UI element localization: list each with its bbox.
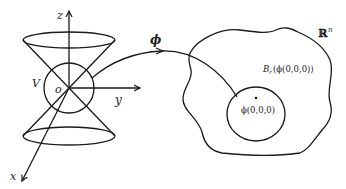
lower-cone-rim: [23, 127, 115, 145]
space-label: ℝ: [318, 27, 328, 40]
origin-label: o: [55, 83, 62, 96]
neighborhood-label: V: [32, 77, 41, 90]
map-label: ϕ: [150, 33, 162, 47]
center-point-label: ϕ(0,0,0): [241, 105, 275, 115]
x-axis: [22, 88, 69, 181]
center-point: [255, 97, 258, 100]
ball-label-subscript: r: [269, 69, 272, 75]
y-axis-label: y: [114, 93, 122, 107]
coordinate-axes: [22, 11, 140, 181]
ball-label-argument: (ϕ(0,0,0)): [273, 64, 314, 74]
mapping-diagram: z y x o V ϕ ℝ n ϕ(0,0,0) B r (ϕ(0,0,0)): [0, 0, 346, 189]
space-region: [183, 28, 332, 155]
space-exponent: n: [328, 26, 333, 34]
z-axis-label: z: [56, 9, 63, 22]
x-axis-label: x: [10, 170, 17, 183]
map-curve: [92, 51, 237, 97]
